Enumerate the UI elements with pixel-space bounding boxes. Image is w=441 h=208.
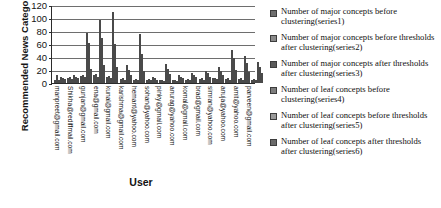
bar-chart-figure: Recommended News Categories 120100806040…	[0, 0, 441, 208]
x-tick-label: brad@gmail.com	[194, 86, 201, 136]
legend-swatch-icon	[270, 139, 277, 146]
bar-group	[172, 6, 185, 83]
legend-label: Number of major concepts before clusteri…	[281, 6, 438, 26]
bar-group	[79, 6, 92, 83]
legend-swatch-icon	[270, 10, 277, 17]
legend-label: Number of leaf concepts after thresholds…	[281, 136, 438, 156]
y-tick-label: 40	[36, 53, 47, 63]
x-tick: gunjan@gmail.com	[77, 86, 90, 156]
bar-group	[66, 6, 79, 83]
legend-swatch-icon	[270, 87, 277, 94]
bar-groups	[52, 6, 255, 83]
x-tick: anurag@yahoo.com	[166, 86, 179, 156]
bar-group	[159, 6, 172, 83]
chart-legend: Number of major concepts before clusteri…	[270, 6, 438, 202]
x-tick-label: karishma@gmail.com	[118, 86, 125, 150]
x-tick-label: manpreet@gmail.com	[54, 86, 61, 151]
legend-item[interactable]: Number of leaf concepts after thresholds…	[270, 136, 438, 156]
y-tick-label: 60	[36, 40, 47, 50]
bar-group	[185, 6, 198, 83]
legend-swatch-icon	[270, 113, 277, 120]
bar-group	[145, 6, 158, 83]
legend-swatch-icon	[270, 35, 277, 42]
legend-item[interactable]: Number of major concepts before threshol…	[270, 32, 438, 52]
x-tick: brad@gmail.com	[191, 86, 204, 156]
x-tick-label: parveen@gmail.com	[245, 86, 252, 147]
x-tick-label: anuja@yahoo.com	[220, 86, 227, 141]
legend-label: Number of leaf concepts before clusterin…	[281, 84, 438, 104]
plot-area-wrapper: 120100806040200	[26, 6, 256, 90]
x-tick: kunal@gmail.com	[102, 86, 115, 156]
legend-label: Number of leaf concepts before threshold…	[281, 110, 438, 130]
bar-group	[251, 6, 264, 83]
y-axis-tick-labels: 120100806040200	[26, 6, 49, 84]
bar-group	[93, 6, 106, 83]
x-tick: simran@yahoo.com	[204, 86, 217, 156]
legend-swatch-icon	[270, 61, 277, 68]
x-tick: hemant@yahoo.com	[128, 86, 141, 156]
legend-item[interactable]: Number of major concepts after threshold…	[270, 58, 438, 78]
bar-group	[132, 6, 145, 83]
x-tick-label: hemant@yahoo.com	[130, 86, 137, 147]
x-tick: manpreet@gmail.com	[51, 86, 64, 156]
x-tick: parveen@gmail.com	[242, 86, 255, 156]
x-tick-label: Shikha@rediffmail.com	[67, 86, 74, 154]
y-tick-label: 20	[36, 66, 47, 76]
bar-group	[53, 6, 66, 83]
x-tick-label: ena@gmail.com	[92, 86, 99, 134]
x-tick: komal@gmail.com	[179, 86, 192, 156]
x-tick-label: amit@yahoo.com	[232, 86, 239, 137]
y-tick-label: 0	[42, 79, 47, 89]
legend-item[interactable]: Number of leaf concepts before clusterin…	[270, 84, 438, 104]
bar-group	[119, 6, 132, 83]
x-tick: ena@gmail.com	[89, 86, 102, 156]
plot-area	[51, 6, 255, 84]
legend-item[interactable]: Number of major concepts before clusteri…	[270, 6, 438, 26]
x-axis-tick-labels: manpreet@gmail.comShikha@rediffmail.comg…	[51, 86, 255, 156]
bar	[261, 73, 263, 83]
x-tick-label: gunjan@gmail.com	[79, 86, 86, 143]
legend-label: Number of major concepts after threshold…	[281, 58, 438, 78]
x-tick-label: simran@yahoo.com	[207, 86, 214, 145]
bar-group	[211, 6, 224, 83]
y-tick-label: 120	[31, 1, 47, 11]
x-tick: Shikha@rediffmail.com	[64, 86, 77, 156]
y-tick-label: 100	[31, 14, 47, 24]
legend-label: Number of major concepts before threshol…	[281, 32, 438, 52]
x-tick-label: kunal@gmail.com	[105, 86, 112, 139]
bar-group	[238, 6, 251, 83]
x-tick-label: sohan@yahoo.com	[143, 86, 150, 143]
x-tick: amit@yahoo.com	[230, 86, 243, 156]
x-tick-label: komal@gmail.com	[181, 86, 188, 140]
legend-item[interactable]: Number of leaf concepts before threshold…	[270, 110, 438, 130]
x-tick: pinky@gmail.com	[153, 86, 166, 156]
y-tick-label: 80	[36, 27, 47, 37]
x-tick: sohan@yahoo.com	[140, 86, 153, 156]
bar-group	[224, 6, 237, 83]
bar-group	[106, 6, 119, 83]
x-tick: karishma@gmail.com	[115, 86, 128, 156]
x-tick-label: pinky@gmail.com	[156, 86, 163, 138]
x-tick-label: anurag@yahoo.com	[169, 86, 176, 145]
x-tick: anuja@yahoo.com	[217, 86, 230, 156]
y-tick-mark	[49, 84, 52, 85]
bar-group	[198, 6, 211, 83]
x-axis-title: User	[26, 176, 256, 188]
